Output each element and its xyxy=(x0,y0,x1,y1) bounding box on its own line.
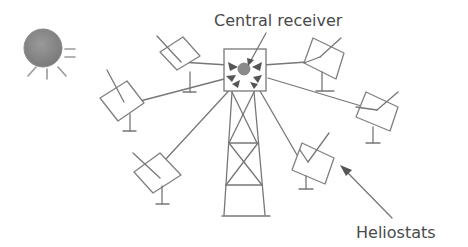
heliostats-arrowhead xyxy=(340,165,352,176)
heliostat-2 xyxy=(100,70,144,131)
central-receiver-box xyxy=(224,49,266,91)
heliostats-leader xyxy=(346,171,392,218)
sun-icon xyxy=(24,29,75,79)
heliostat-1 xyxy=(157,36,200,92)
heliostat-4 xyxy=(304,38,344,91)
heliostats-label: Heliostats xyxy=(356,223,436,242)
central-receiver-label: Central receiver xyxy=(214,11,343,30)
lattice-tower xyxy=(222,92,270,216)
heliostat-3 xyxy=(133,153,181,204)
heliostat-6 xyxy=(292,133,334,189)
heliostat-5 xyxy=(356,92,398,143)
solar-tower-diagram: Central receiver Heliostats xyxy=(0,0,468,247)
